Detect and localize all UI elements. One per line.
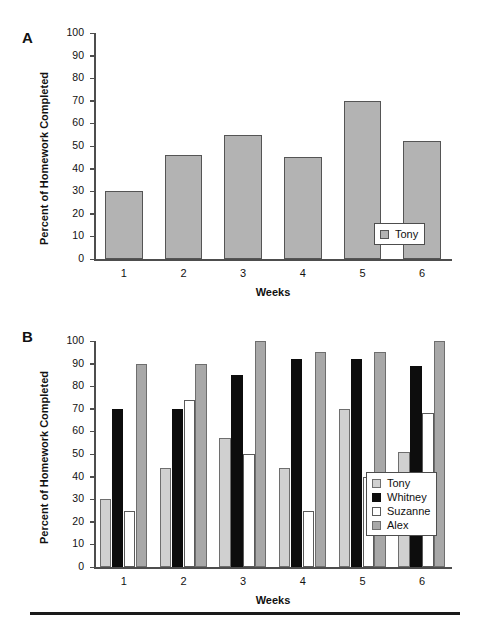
panel-b-x-tick-label: 1 [112, 575, 136, 587]
panel-a-y-tick [90, 259, 95, 261]
panel-b-x-axis-title: Weeks [223, 594, 323, 606]
panel-b-legend-label: Whitney [387, 490, 427, 504]
panel-b-y-tick [90, 521, 95, 523]
bar-suzanne-week-1 [124, 511, 135, 568]
panel-a-legend-item-tony[interactable]: Tony [380, 227, 418, 241]
legend-swatch-alex-icon [372, 521, 381, 530]
panel-b-y-tick-label: 50 [60, 447, 84, 459]
panel-a-x-tick-label: 5 [351, 267, 375, 279]
panel-b-y-tick-label: 90 [60, 357, 84, 369]
bar-whitney-week-3 [231, 375, 242, 567]
bar-alex-week-4 [315, 352, 326, 567]
panel-a-y-tick-label: 10 [60, 229, 84, 241]
panel-a-x-tick-label: 1 [112, 267, 136, 279]
panel-b-legend-item-alex[interactable]: Alex [372, 518, 430, 532]
bar-whitney-week-5 [351, 359, 362, 567]
panel-b-y-tick [90, 363, 95, 365]
bar-tony-week-3 [224, 135, 262, 259]
panel-b-y-tick-label: 10 [60, 537, 84, 549]
panel-b-y-tick [90, 341, 95, 343]
panel-a-y-tick-label: 80 [60, 71, 84, 83]
panel-a-y-tick-label: 70 [60, 94, 84, 106]
bar-suzanne-week-4 [303, 511, 314, 568]
panel-b-y-tick [90, 408, 95, 410]
bar-tony-week-1 [105, 191, 143, 259]
panel-b-y-tick-label: 20 [60, 515, 84, 527]
legend-swatch-tony-icon [372, 479, 381, 488]
panel-a-y-tick-label: 60 [60, 116, 84, 128]
panel-a-x-axis-title: Weeks [223, 286, 323, 298]
bar-whitney-week-2 [172, 409, 183, 567]
panel-b-legend-label: Alex [387, 518, 408, 532]
bar-tony-week-4 [279, 468, 290, 567]
panel-a-x-tick-label: 6 [410, 267, 434, 279]
bar-suzanne-week-3 [243, 454, 254, 567]
panel-a-plot-area: 1009080706050403020100123456Weeks [0, 0, 479, 312]
bar-alex-week-2 [195, 364, 206, 567]
bar-tony-week-2 [165, 155, 203, 259]
legend-swatch-whitney-icon [372, 493, 381, 502]
panel-a-x-axis-line [94, 259, 452, 261]
bottom-rule-divider [30, 612, 460, 615]
panel-b-x-tick-label: 2 [172, 575, 196, 587]
panel-a-legend[interactable]: Tony [374, 223, 425, 245]
panel-a-y-axis-line [94, 33, 96, 261]
panel-b-y-tick-label: 30 [60, 492, 84, 504]
bar-suzanne-week-2 [184, 400, 195, 567]
panel-b-y-tick [90, 431, 95, 433]
panel-b-y-tick [90, 499, 95, 501]
bar-tony-week-2 [160, 468, 171, 567]
panel-a-y-tick-label: 30 [60, 184, 84, 196]
panel-a-y-tick-label: 90 [60, 49, 84, 61]
panel-a-y-tick [90, 100, 95, 102]
panel-a-y-tick-label: 20 [60, 207, 84, 219]
panel-b-y-tick-label: 70 [60, 402, 84, 414]
bar-tony-week-4 [284, 157, 322, 259]
panel-b-legend-item-tony[interactable]: Tony [372, 476, 430, 490]
panel-b-y-tick-label: 40 [60, 470, 84, 482]
panel-a-y-tick-label: 50 [60, 139, 84, 151]
panel-a-x-tick-label: 4 [291, 267, 315, 279]
panel-b-y-tick [90, 386, 95, 388]
bar-tony-week-3 [219, 438, 230, 567]
panel-b-y-axis-line [94, 341, 96, 569]
panel-b-y-tick [90, 567, 95, 569]
panel-a-y-tick [90, 123, 95, 125]
panel-b-legend[interactable]: TonyWhitneySuzanneAlex [366, 472, 437, 536]
panel-b-y-tick-label: 60 [60, 424, 84, 436]
panel-a-y-tick-label: 40 [60, 162, 84, 174]
panel-a-y-tick [90, 191, 95, 193]
panel-b-y-tick-label: 100 [60, 334, 84, 346]
bar-alex-week-3 [255, 341, 266, 567]
panel-a-y-tick [90, 236, 95, 238]
bar-whitney-week-4 [291, 359, 302, 567]
bar-tony-week-1 [100, 499, 111, 567]
panel-a-y-tick [90, 78, 95, 80]
panel-b-x-tick-label: 6 [410, 575, 434, 587]
bar-tony-week-5 [339, 409, 350, 567]
panel-a-x-tick-label: 2 [172, 267, 196, 279]
legend-swatch-tony-icon [380, 230, 389, 239]
panel-b-y-tick [90, 544, 95, 546]
panel-b-x-tick-label: 5 [351, 575, 375, 587]
panel-a-y-tick [90, 146, 95, 148]
panel-b-legend-label: Tony [387, 476, 410, 490]
panel-a-y-tick [90, 213, 95, 215]
bar-whitney-week-6 [410, 366, 421, 567]
panel-b-x-axis-line [94, 567, 452, 569]
bar-alex-week-1 [136, 364, 147, 567]
panel-a-legend-label: Tony [395, 227, 418, 241]
panel-b-x-tick-label: 3 [231, 575, 255, 587]
panel-a-y-tick [90, 33, 95, 35]
panel-b-y-tick [90, 454, 95, 456]
panel-b: B Percent of Homework Completed 10090807… [0, 312, 479, 602]
panel-a-x-tick-label: 3 [231, 267, 255, 279]
panel-b-legend-item-suzanne[interactable]: Suzanne [372, 504, 430, 518]
panel-b-legend-item-whitney[interactable]: Whitney [372, 490, 430, 504]
panel-b-y-tick [90, 476, 95, 478]
panel-a-y-tick [90, 168, 95, 170]
panel-b-y-tick-label: 0 [60, 560, 84, 572]
panel-b-x-tick-label: 4 [291, 575, 315, 587]
bar-whitney-week-1 [112, 409, 123, 567]
panel-a-y-tick [90, 55, 95, 57]
